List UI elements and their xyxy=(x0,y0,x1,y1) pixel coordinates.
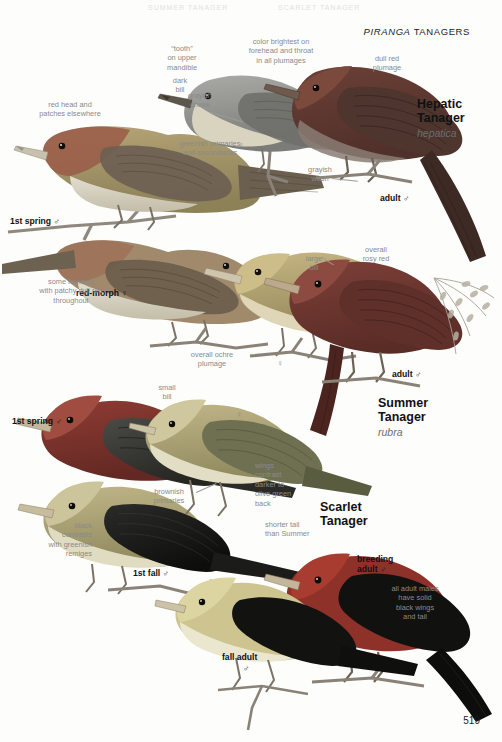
note-tooth-mandible: “tooth” on upper mandible xyxy=(151,44,213,72)
hepatic-common-line2: Tanager xyxy=(417,111,465,125)
label-scarlet-breeding-adult-male-line2: adult ♂ xyxy=(357,564,386,575)
running-head: PIRANGA TANAGERS xyxy=(364,26,470,37)
label-hepatic-1st-spring-male: 1st spring ♂ xyxy=(10,216,60,227)
note-color-brightest: color brightest on forehead and throat i… xyxy=(226,37,336,65)
label-scarlet-1st-fall-male: 1st fall ♂ xyxy=(133,568,169,579)
ghost-text-1: SUMMER TANAGER xyxy=(148,4,228,11)
ghost-text-2: SCARLET TANAGER xyxy=(278,4,360,11)
summer-scientific: rubra xyxy=(378,426,428,440)
species-name-hepatic: Hepatic Tanager hepatica xyxy=(417,97,465,140)
note-wings-contrast: wings contrast darker to olive green bac… xyxy=(255,461,311,508)
sex-mark-summer-female: ♀ xyxy=(277,358,283,368)
field-guide-page: SUMMER TANAGER SCARLET TANAGER PIRANGA T… xyxy=(0,0,502,742)
note-grayish-cheek: grayish cheek xyxy=(178,91,222,110)
scarlet-common-line1: Scarlet xyxy=(320,500,368,514)
note-dull-red-plumage: dull red plumage xyxy=(358,54,416,73)
leader-brownish-primaries xyxy=(196,483,217,493)
summer-common-line1: Summer xyxy=(378,396,428,410)
summer-common-line2: Tanager xyxy=(378,410,428,424)
page-number: 519 xyxy=(463,715,480,726)
note-grayish-wash: grayish wash xyxy=(299,165,341,184)
sex-mark-scarlet-female: ♀ xyxy=(236,409,242,419)
sex-mark-hepatic-female: ♀ xyxy=(238,140,244,150)
note-large-bill: large bill xyxy=(297,254,331,273)
label-summer-adult-male: adult ♂ xyxy=(392,369,421,380)
label-hepatic-adult-male: adult ♂ xyxy=(380,193,409,204)
note-small-bill: small bill xyxy=(150,383,184,402)
running-head-genus: PIRANGA xyxy=(364,26,411,37)
leader-grayish-cheek xyxy=(210,112,243,122)
note-patchy-dull-red: some females with patchy dull red throug… xyxy=(12,277,130,305)
note-red-head-patches: red head and patches elsewhere xyxy=(18,100,122,119)
label-scarlet-fall-adult-line1: fall adult xyxy=(222,652,257,663)
note-solid-black-wings: all adult males have solid black wings a… xyxy=(378,584,452,622)
species-name-summer: Summer Tanager rubra xyxy=(378,396,428,439)
hepatic-scientific: hepatica xyxy=(417,127,465,141)
label-scarlet-fall-adult-line2: ♂ xyxy=(243,663,249,674)
note-overall-ochre: overall ochre plumage xyxy=(178,350,246,369)
note-overall-rosy-red: overall rosy red xyxy=(351,245,401,264)
note-black-contrasts: black contrasts with greenish remiges xyxy=(30,521,92,559)
note-brownish-primaries: brownish primaries xyxy=(143,487,195,506)
note-shorter-tail: shorter tail than Summer xyxy=(265,520,331,539)
label-scarlet-1st-spring-male: 1st spring ♂ xyxy=(12,416,62,427)
note-greenish-primaries: greenish primaries and secondaries xyxy=(160,139,260,158)
running-head-rest: TANAGERS xyxy=(411,26,470,37)
hepatic-common-line1: Hepatic xyxy=(417,97,465,111)
